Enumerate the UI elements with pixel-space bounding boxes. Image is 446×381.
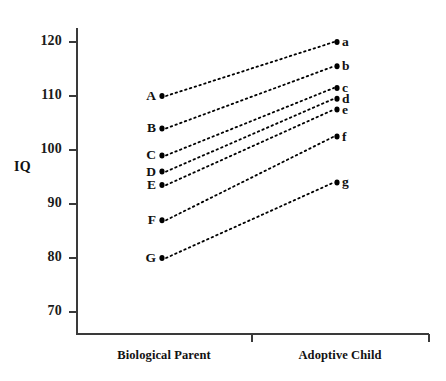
- point-label-left: C: [146, 149, 156, 163]
- x-axis-tick: [428, 334, 430, 342]
- point-label-left: B: [147, 122, 156, 136]
- series-lines: [0, 0, 446, 381]
- y-axis-line: [76, 28, 78, 335]
- data-point-marker: [159, 125, 164, 131]
- data-point-marker: [159, 182, 164, 188]
- y-axis-tick-label: 110: [18, 87, 62, 103]
- series-connector-line: [166, 182, 334, 258]
- series-connector-line: [166, 110, 334, 186]
- data-point-marker: [334, 39, 339, 45]
- point-label-right: e: [342, 103, 348, 117]
- data-point-marker: [334, 179, 339, 185]
- point-label-right: b: [342, 60, 350, 74]
- point-label-left: D: [146, 165, 156, 179]
- iq-slope-chart: IQ 120110100908070 Biological ParentAdop…: [0, 0, 446, 381]
- x-axis-category-label: Biological Parent: [117, 348, 210, 363]
- y-axis-tick: [69, 41, 77, 43]
- data-point-marker: [159, 217, 164, 223]
- point-label-right: g: [342, 176, 349, 190]
- series-connector-line: [166, 66, 334, 128]
- y-axis-tick-label: 90: [18, 195, 62, 211]
- point-label-right: f: [342, 130, 347, 144]
- data-point-marker: [159, 255, 164, 261]
- data-point-marker: [334, 63, 339, 69]
- data-point-marker: [334, 107, 339, 113]
- data-point-marker: [159, 152, 164, 158]
- point-label-left: A: [146, 89, 156, 103]
- y-axis-tick-label: 70: [18, 303, 62, 319]
- y-axis-tick-label: 120: [18, 33, 62, 49]
- series-connector-line: [166, 88, 334, 155]
- data-point-marker: [334, 134, 339, 140]
- data-point-marker: [159, 93, 164, 99]
- y-axis-tick-label: 100: [18, 141, 62, 157]
- y-axis-tick: [69, 257, 77, 259]
- y-axis-tick: [69, 149, 77, 151]
- series-connector-line: [166, 99, 334, 172]
- data-point-marker: [159, 169, 164, 175]
- x-axis-category-label: Adoptive Child: [298, 348, 381, 363]
- y-axis-title: IQ: [14, 159, 31, 175]
- y-axis-tick: [69, 311, 77, 313]
- data-point-marker: [334, 85, 339, 91]
- series-connector-line: [166, 42, 334, 96]
- point-label-left: G: [145, 251, 156, 265]
- point-label-left: E: [147, 178, 156, 192]
- point-label-right: a: [342, 35, 349, 49]
- x-axis-tick: [251, 334, 253, 342]
- point-label-left: F: [148, 213, 156, 227]
- data-point-marker: [334, 96, 339, 102]
- y-axis-tick: [69, 95, 77, 97]
- series-connector-line: [166, 137, 334, 221]
- y-axis-tick-label: 80: [18, 249, 62, 265]
- y-axis-tick: [69, 203, 77, 205]
